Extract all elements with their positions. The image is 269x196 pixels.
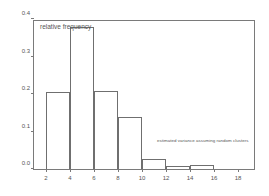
x-tick-label: 6 bbox=[92, 175, 95, 181]
y-tick-label: 0.2 bbox=[22, 85, 30, 91]
x-tick-label: 2 bbox=[44, 175, 47, 181]
x-tick-mark bbox=[118, 169, 119, 172]
x-tick-label: 8 bbox=[116, 175, 119, 181]
x-tick-label: 16 bbox=[211, 175, 218, 181]
y-tick-mark bbox=[31, 56, 34, 57]
bar-bin-6-8 bbox=[94, 91, 118, 169]
histogram-chart: 0.0 0.1 0.2 0.3 0.4 2 4 6 8 10 12 bbox=[0, 0, 269, 196]
y-tick-mark bbox=[31, 93, 34, 94]
x-tick-mark bbox=[190, 169, 191, 172]
y-tick-mark bbox=[31, 131, 34, 132]
bar-bin-10-12 bbox=[142, 159, 166, 170]
y-tick-mark bbox=[31, 168, 34, 169]
x-tick-mark bbox=[142, 169, 143, 172]
bar-bin-4-6 bbox=[70, 27, 94, 170]
x-tick-mark bbox=[46, 169, 47, 172]
x-tick-label: 18 bbox=[235, 175, 242, 181]
y-tick-label: 0.1 bbox=[22, 123, 30, 129]
bar-bin-12-14 bbox=[166, 166, 190, 169]
plot-area: 0.0 0.1 0.2 0.3 0.4 2 4 6 8 10 12 bbox=[33, 20, 255, 170]
y-tick-mark bbox=[31, 18, 34, 19]
bar-bin-2-4 bbox=[46, 92, 70, 169]
x-tick-mark bbox=[166, 169, 167, 172]
y-tick-label: 0.0 bbox=[22, 160, 30, 166]
variance-annotation: estimated variance assuming random clust… bbox=[157, 139, 248, 143]
x-tick-label: 12 bbox=[163, 175, 170, 181]
y-axis-label: relative frequency bbox=[40, 24, 91, 31]
x-tick-label: 14 bbox=[187, 175, 194, 181]
x-tick-mark bbox=[238, 169, 239, 172]
x-tick-label: 4 bbox=[68, 175, 71, 181]
x-tick-label: 10 bbox=[139, 175, 146, 181]
bar-bin-8-10 bbox=[118, 117, 142, 170]
x-tick-mark bbox=[94, 169, 95, 172]
y-tick-label: 0.3 bbox=[22, 48, 30, 54]
bar-bin-14-16 bbox=[190, 165, 214, 170]
x-tick-mark bbox=[70, 169, 71, 172]
x-tick-mark bbox=[214, 169, 215, 172]
y-tick-label: 0.4 bbox=[22, 10, 30, 16]
